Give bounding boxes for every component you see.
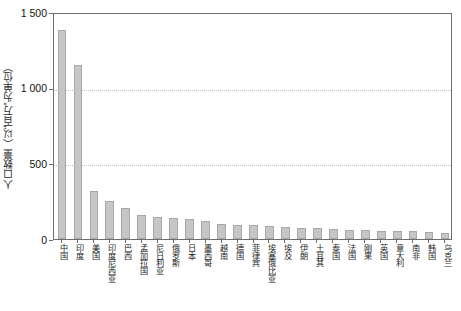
bar	[105, 201, 114, 239]
x-tick-mark	[380, 240, 381, 243]
bar	[377, 231, 386, 239]
x-tick-mark	[412, 240, 413, 243]
x-tick-mark	[284, 240, 285, 243]
x-tick-label: 伊朗	[294, 244, 307, 259]
x-tick-label: 印度尼西亚	[102, 244, 115, 283]
x-tick-mark	[237, 240, 238, 243]
x-tick-mark	[253, 240, 254, 243]
y-axis-title: 人口数量（以“百万”为单位）	[0, 38, 18, 213]
x-tick-mark	[364, 240, 365, 243]
bar	[169, 218, 178, 239]
bar	[297, 228, 306, 239]
bar	[281, 227, 290, 239]
x-tick-label: 尼日利亚	[150, 244, 163, 275]
bar	[217, 224, 226, 239]
x-tick-label: 菲律宾	[246, 244, 259, 267]
x-tick-mark	[61, 240, 62, 243]
x-tick-label: 德国	[230, 244, 243, 259]
x-tick-mark	[77, 240, 78, 243]
bar	[90, 191, 99, 239]
x-tick-label: 孟加拉国	[134, 244, 147, 275]
x-tick-mark	[268, 240, 269, 243]
bar	[233, 225, 242, 239]
x-tick-label: 埃塞俄比亚	[262, 244, 275, 283]
x-tick-label: 墨西哥	[198, 244, 211, 267]
x-tick-label: 泰国	[326, 244, 339, 259]
x-tick-label: 越南	[214, 244, 227, 259]
bar	[441, 233, 450, 239]
x-tick-mark	[93, 240, 94, 243]
plot-area	[53, 13, 452, 240]
bar	[121, 208, 130, 239]
x-tick-mark	[109, 240, 110, 243]
x-tick-mark	[141, 240, 142, 243]
x-tick-label: 日本	[182, 244, 195, 259]
x-tick-label: 刚果	[358, 244, 371, 259]
x-tick-mark	[205, 240, 206, 243]
bar	[329, 229, 338, 239]
x-tick-label: 英国	[374, 244, 387, 259]
x-tick-label: 俄罗斯	[166, 244, 179, 267]
bar	[265, 226, 274, 239]
bar	[153, 217, 162, 239]
x-tick-mark	[444, 240, 445, 243]
bar	[249, 225, 258, 239]
x-tick-mark	[348, 240, 349, 243]
x-tick-label: 南非	[406, 244, 419, 259]
x-tick-mark	[332, 240, 333, 243]
x-tick-mark	[221, 240, 222, 243]
x-tick-mark	[300, 240, 301, 243]
x-tick-label: 印度	[70, 244, 83, 259]
y-tick-label: 0	[11, 235, 47, 246]
y-tick-mark	[49, 240, 53, 241]
bar	[313, 228, 322, 239]
bar	[58, 30, 67, 239]
bar	[74, 65, 83, 239]
x-tick-label: 法国	[342, 244, 355, 259]
x-tick-label: 乌克兰	[438, 244, 451, 267]
bar	[185, 219, 194, 239]
bar	[409, 231, 418, 239]
x-tick-mark	[396, 240, 397, 243]
x-tick-label: 土耳其	[310, 244, 323, 267]
x-tick-label: 中国	[54, 244, 67, 259]
x-tick-label: 韩国	[422, 244, 435, 259]
bar	[393, 231, 402, 239]
x-tick-mark	[428, 240, 429, 243]
x-tick-label: 巴西	[118, 244, 131, 259]
x-tick-label: 美国	[86, 244, 99, 259]
bar	[345, 230, 354, 239]
bar-series	[54, 14, 451, 239]
bar	[137, 215, 146, 239]
bar	[425, 232, 434, 239]
x-tick-mark	[157, 240, 158, 243]
y-tick-label: 1 500	[11, 8, 47, 19]
bar	[361, 230, 370, 239]
x-tick-mark	[125, 240, 126, 243]
x-tick-mark	[173, 240, 174, 243]
x-tick-mark	[189, 240, 190, 243]
x-tick-label: 埃及	[278, 244, 291, 259]
bar	[201, 221, 210, 239]
x-tick-mark	[316, 240, 317, 243]
x-tick-label: 意大利	[390, 244, 403, 267]
chart-screenshot: 人口数量（以“百万”为单位） 05001 0001 500 中国印度美国印度尼西…	[0, 0, 461, 311]
